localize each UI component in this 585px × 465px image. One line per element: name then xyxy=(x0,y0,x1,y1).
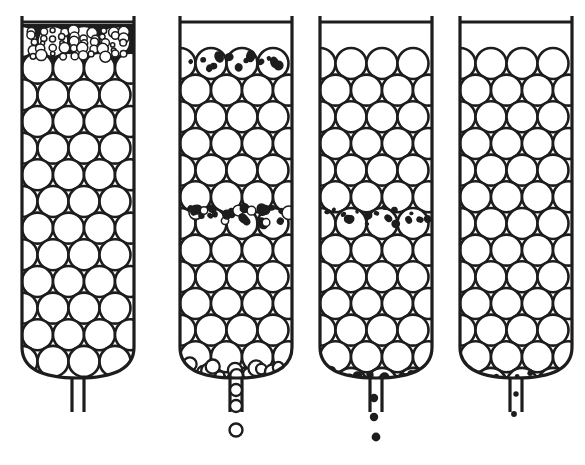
coarse-sphere xyxy=(69,346,100,377)
falling-particle xyxy=(370,413,378,421)
packed-bed-diagram xyxy=(0,0,585,465)
column-2-contents xyxy=(165,48,305,399)
cake-fine-particle xyxy=(101,28,107,34)
column-4-contents xyxy=(445,48,585,399)
falling-particle xyxy=(372,433,381,442)
mid-band-ring-particle xyxy=(200,207,208,215)
figure-root xyxy=(0,0,585,465)
cake-fine-particle xyxy=(31,39,37,45)
mid-band-ring-particle xyxy=(247,206,256,215)
column-1-contents xyxy=(7,24,147,377)
falling-particle xyxy=(230,424,243,437)
cake-fine-particle xyxy=(100,51,111,62)
cake-fine-particle xyxy=(51,52,55,56)
cake-fine-particle xyxy=(120,39,127,46)
cake-fine-particle xyxy=(111,43,115,47)
cake-fine-particle xyxy=(40,28,47,35)
falling-particle xyxy=(513,391,518,396)
bottom-fine-particle xyxy=(483,379,487,383)
falling-particle xyxy=(230,384,242,396)
cake-fine-particle xyxy=(60,53,67,60)
falling-particle xyxy=(511,411,517,417)
cake-fine-particle xyxy=(50,28,55,33)
cake-fine-particle xyxy=(49,36,55,42)
column-2 xyxy=(165,16,305,437)
cake-fine-particle xyxy=(27,31,35,39)
coarse-sphere xyxy=(305,368,336,399)
bottom-fine-particle xyxy=(564,371,568,375)
falling-particle xyxy=(370,394,378,402)
cake-fine-particle xyxy=(49,44,56,51)
column-3 xyxy=(305,16,445,441)
falling-particle xyxy=(230,400,242,412)
cake-fine-particle xyxy=(36,49,47,60)
bottom-fine-particle xyxy=(527,370,533,376)
cake-fine-particle xyxy=(59,34,65,40)
bottom-fine-particle xyxy=(485,378,491,384)
cake-fine-particle xyxy=(79,51,88,60)
cake-fine-particle xyxy=(120,50,127,57)
bottom-fine-particle xyxy=(475,375,479,379)
column-4 xyxy=(445,16,585,417)
cake-fine-particle xyxy=(88,51,94,57)
bottom-fine-particle xyxy=(555,373,560,378)
coarse-sphere xyxy=(165,368,196,399)
cake-fine-particle xyxy=(71,53,78,60)
column-1 xyxy=(7,16,147,412)
mid-band-ring-particle xyxy=(262,219,270,227)
column-3-contents xyxy=(305,48,445,399)
cake-fine-particle xyxy=(41,35,47,41)
cake-fine-particle xyxy=(59,42,70,53)
cake-fine-particle xyxy=(112,50,119,57)
bottom-fine-particle xyxy=(548,378,552,382)
coarse-sphere xyxy=(445,368,476,399)
